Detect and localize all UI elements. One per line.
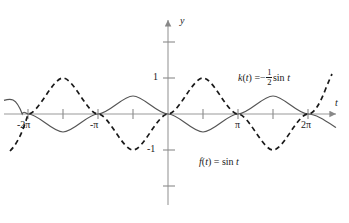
curve-k-equation-label: k(t) =−12sin t xyxy=(238,68,290,86)
y-axis-label: y xyxy=(180,16,184,26)
curve-f-equation-label: f(t) = sin t xyxy=(199,157,239,167)
f-paren-close: ) xyxy=(208,156,211,167)
x-tick-label-neg-pi: -π xyxy=(90,120,98,130)
k-argument: t xyxy=(287,72,290,83)
k-minus-sign: − xyxy=(260,72,266,83)
x-tick-label-pi: π xyxy=(235,120,240,130)
k-fraction-numerator: 1 xyxy=(266,68,272,77)
f-equals-sin: = sin xyxy=(214,156,234,167)
k-paren-close: ) xyxy=(249,72,252,83)
x-tick-label-neg-2pi: -2π xyxy=(17,120,30,130)
x-tick-label-2pi: 2π xyxy=(301,120,311,130)
k-fraction-one-half: 12 xyxy=(266,68,272,86)
f-argument: t xyxy=(236,156,239,167)
x-axis-label: t xyxy=(335,98,338,108)
k-fraction-denominator: 2 xyxy=(266,77,272,87)
y-tick-label-neg-1: -1 xyxy=(147,144,155,154)
graph-canvas xyxy=(0,0,349,223)
y-tick-label-1: 1 xyxy=(153,72,158,82)
k-sin: sin xyxy=(273,72,285,83)
